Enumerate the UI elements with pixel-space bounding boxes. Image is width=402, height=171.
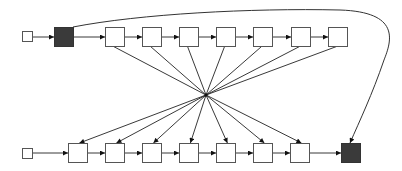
bottom-list-node bbox=[291, 144, 310, 163]
bottom-dark-node bbox=[342, 144, 361, 163]
bottom-list-node bbox=[106, 144, 125, 163]
hub-point bbox=[205, 94, 208, 97]
bottom-list-node bbox=[254, 144, 273, 163]
top-list-node bbox=[143, 28, 162, 47]
top-head-node bbox=[23, 32, 33, 42]
top-to-hub-edge bbox=[114, 47, 206, 96]
top-list-node bbox=[106, 28, 125, 47]
top-list-node bbox=[180, 28, 199, 47]
hub-to-bottom-edge bbox=[206, 95, 227, 143]
hub-to-bottom-edge bbox=[206, 95, 301, 143]
bottom-list-node bbox=[180, 144, 199, 163]
bottom-list-node bbox=[217, 144, 236, 163]
linked-list-diagram bbox=[0, 0, 402, 171]
top-to-hub-edge bbox=[206, 47, 225, 96]
top-list-node bbox=[329, 28, 348, 47]
top-list-node bbox=[217, 28, 236, 47]
bottom-list-node bbox=[69, 144, 88, 163]
diagram-canvas bbox=[0, 0, 402, 171]
top-list-node bbox=[254, 28, 273, 47]
bottom-list-node bbox=[143, 144, 162, 163]
top-to-hub-edge bbox=[206, 47, 337, 96]
hub-to-bottom-edge bbox=[79, 95, 206, 143]
hub-to-bottom-edge bbox=[206, 95, 264, 143]
top-dark-node bbox=[55, 28, 74, 47]
bottom-head-node bbox=[23, 149, 33, 159]
top-to-hub-edge bbox=[188, 47, 206, 96]
nodes-layer bbox=[23, 28, 361, 163]
top-list-node bbox=[292, 28, 311, 47]
